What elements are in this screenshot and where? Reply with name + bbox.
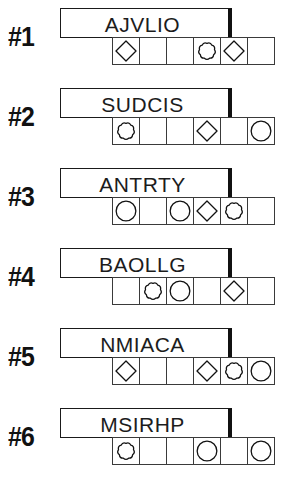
answer-cell[interactable]	[220, 277, 248, 305]
answer-cell[interactable]	[139, 357, 167, 385]
diamond-icon	[221, 38, 247, 64]
answer-cell[interactable]	[247, 37, 275, 65]
row-index-label: #6	[8, 422, 52, 452]
answer-cell[interactable]	[220, 197, 248, 225]
answer-cell[interactable]	[166, 357, 194, 385]
scrambled-word-box: AJVLIO	[60, 8, 232, 38]
answer-cell[interactable]	[139, 277, 167, 305]
answer-cell[interactable]	[166, 117, 194, 145]
answer-cell[interactable]	[247, 117, 275, 145]
answer-cell[interactable]	[220, 437, 248, 465]
scrambled-word-box: MSIRHP	[60, 408, 232, 438]
scrambled-word-box: ANTRTY	[60, 168, 232, 198]
circle-icon	[167, 198, 193, 224]
answer-cell[interactable]	[139, 37, 167, 65]
answer-cell[interactable]	[193, 37, 221, 65]
circle-icon	[113, 198, 139, 224]
answer-cell[interactable]	[193, 437, 221, 465]
puzzle-row: #4BAOLLG	[0, 246, 308, 308]
answer-cell[interactable]	[166, 37, 194, 65]
scrambled-word-box: BAOLLG	[60, 248, 232, 278]
answer-cell[interactable]	[193, 357, 221, 385]
puzzle-row: #3ANTRTY	[0, 166, 308, 228]
answer-cell[interactable]	[247, 197, 275, 225]
answer-cell[interactable]	[166, 277, 194, 305]
answer-cell[interactable]	[247, 357, 275, 385]
diamond-icon	[221, 278, 247, 304]
answer-cell[interactable]	[139, 117, 167, 145]
circle-icon	[248, 358, 274, 384]
answer-cell[interactable]	[166, 197, 194, 225]
scrambled-word: NMIACA	[61, 329, 224, 359]
answer-grid	[112, 37, 275, 65]
flower-icon	[221, 198, 247, 224]
scrambled-word: SUDCIS	[61, 89, 224, 119]
answer-grid	[112, 277, 275, 305]
flower-icon	[221, 358, 247, 384]
scrambled-word: AJVLIO	[61, 9, 224, 39]
answer-cell[interactable]	[247, 437, 275, 465]
circle-icon	[248, 438, 274, 464]
puzzle-row: #5NMIACA	[0, 326, 308, 388]
flower-icon	[113, 438, 139, 464]
answer-cell[interactable]	[139, 437, 167, 465]
puzzle-row: #6MSIRHP	[0, 406, 308, 468]
answer-cell[interactable]	[193, 197, 221, 225]
circle-icon	[167, 278, 193, 304]
scrambled-word: ANTRTY	[61, 169, 224, 199]
circle-icon	[248, 118, 274, 144]
flower-icon	[194, 38, 220, 64]
answer-cell[interactable]	[112, 197, 140, 225]
answer-cell[interactable]	[112, 37, 140, 65]
scrambled-word: BAOLLG	[61, 249, 224, 279]
diamond-icon	[194, 358, 220, 384]
row-index-label: #4	[8, 262, 52, 292]
diamond-icon	[113, 38, 139, 64]
answer-cell[interactable]	[112, 277, 140, 305]
answer-cell[interactable]	[193, 277, 221, 305]
scrambled-word: MSIRHP	[61, 409, 224, 439]
row-index-label: #2	[8, 102, 52, 132]
answer-grid	[112, 357, 275, 385]
row-index-label: #3	[8, 182, 52, 212]
answer-grid	[112, 437, 275, 465]
circle-icon	[194, 438, 220, 464]
row-index-label: #1	[8, 22, 52, 52]
answer-cell[interactable]	[139, 197, 167, 225]
answer-cell[interactable]	[166, 437, 194, 465]
answer-cell[interactable]	[112, 117, 140, 145]
flower-icon	[113, 118, 139, 144]
row-index-label: #5	[8, 342, 52, 372]
puzzle-row: #2SUDCIS	[0, 86, 308, 148]
answer-cell[interactable]	[220, 117, 248, 145]
answer-cell[interactable]	[193, 117, 221, 145]
puzzle-row: #1AJVLIO	[0, 6, 308, 68]
answer-cell[interactable]	[112, 357, 140, 385]
answer-cell[interactable]	[112, 437, 140, 465]
diamond-icon	[194, 118, 220, 144]
flower-icon	[140, 278, 166, 304]
diamond-icon	[113, 358, 139, 384]
answer-cell[interactable]	[247, 277, 275, 305]
puzzle-worksheet: #1AJVLIO#2SUDCIS#3ANTRTY#4BAOLLG#5NMIACA…	[0, 0, 308, 491]
scrambled-word-box: SUDCIS	[60, 88, 232, 118]
answer-grid	[112, 197, 275, 225]
answer-cell[interactable]	[220, 37, 248, 65]
answer-cell[interactable]	[220, 357, 248, 385]
diamond-icon	[194, 198, 220, 224]
answer-grid	[112, 117, 275, 145]
scrambled-word-box: NMIACA	[60, 328, 232, 358]
